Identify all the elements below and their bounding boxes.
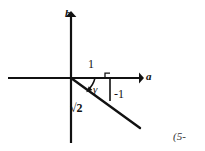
imaginary-part-label: -1 [114, 88, 124, 100]
modulus-label: √2 [70, 102, 83, 114]
axis-label-b: b [65, 8, 71, 19]
real-part-label: 1 [88, 58, 94, 70]
figure-canvas: b a 1 -1 γ √2 (5- [0, 0, 205, 151]
angle-label-gamma: γ [93, 84, 97, 95]
axis-label-a: a [146, 71, 152, 82]
figure-caption: (5- [173, 131, 186, 142]
real-axis-arrowhead [139, 73, 144, 84]
complex-plane-diagram [0, 0, 205, 151]
